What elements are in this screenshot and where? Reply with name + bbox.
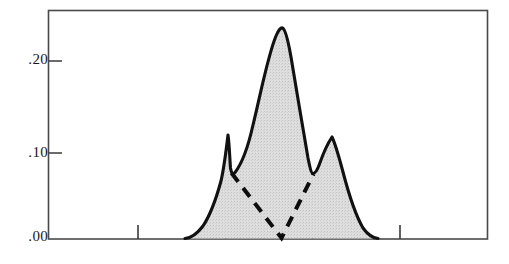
y-tick-label-010: .10 (16, 145, 48, 160)
y-tick-label-000: .00 (16, 229, 48, 244)
chart-figure: .20 .10 .00 (0, 0, 509, 264)
y-axis-ticks (49, 61, 63, 153)
y-tick-label-020: .20 (16, 52, 48, 67)
density-plot-svg (0, 0, 509, 264)
